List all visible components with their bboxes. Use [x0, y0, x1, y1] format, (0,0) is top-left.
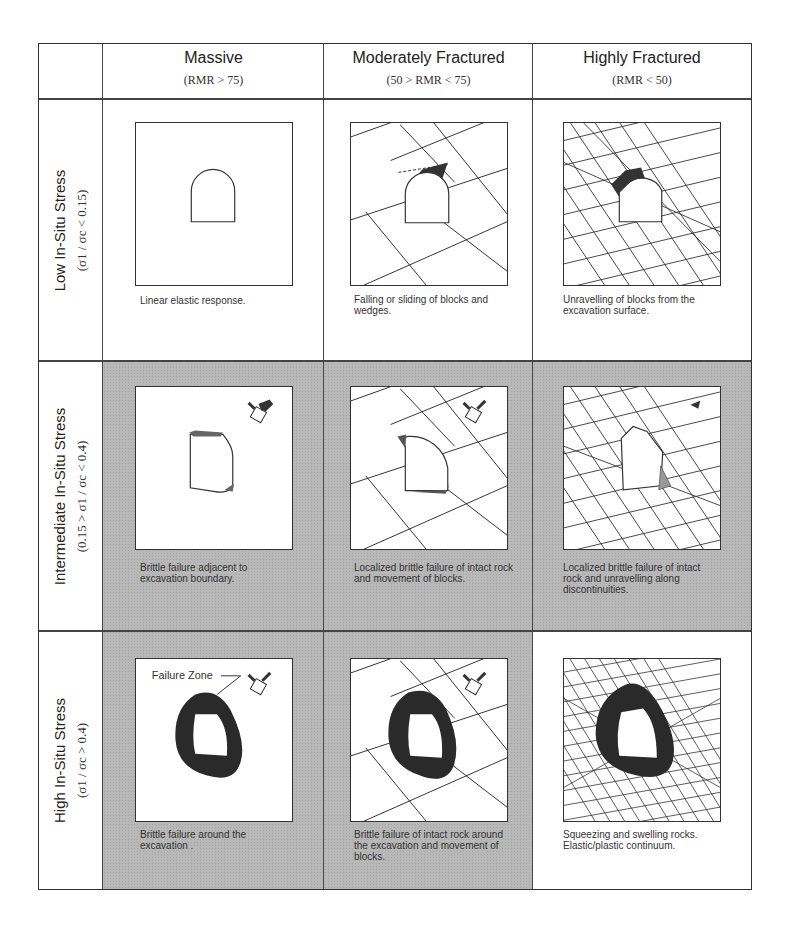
tunnel-elastic-icon: [136, 123, 292, 285]
cell-low-highly: Unravelling of blocks from the excavatio…: [533, 100, 751, 360]
cell-description: Localized brittle failure of intact rock…: [324, 562, 533, 584]
column-header-highly-fractured: Highly Fractured (RMR < 50): [533, 44, 751, 98]
column-header-massive: Massive (RMR > 75): [103, 44, 324, 98]
fractured-failure-zone-tunnel-icon: [351, 659, 507, 821]
cell-low-massive: Linear elastic response.: [103, 100, 324, 360]
row-condition: (σ1 / σc > 0.4): [74, 698, 90, 823]
failure-zone-label: Failure Zone: [151, 669, 212, 681]
row-title: Intermediate In-Situ Stress: [51, 407, 68, 585]
cell-description: Unravelling of blocks from the excavatio…: [533, 294, 751, 316]
fractured-tunnel-icon: [351, 123, 507, 285]
row-header-low-stress: Low In-Situ Stress (σ1 / σc < 0.15): [39, 100, 102, 360]
stress-arrows-icon: [248, 673, 270, 695]
tunnel-diagram: Failure Zone: [135, 658, 293, 822]
column-condition: (50 > RMR < 75): [324, 73, 533, 88]
row-title: High In-Situ Stress: [51, 698, 68, 823]
tunnel-diagram: [563, 658, 721, 822]
cell-description: Brittle failure of intact rock around th…: [324, 829, 533, 862]
row-header-intermediate-stress: Intermediate In-Situ Stress (0.15 > σ1 /…: [39, 362, 102, 630]
row-condition: (0.15 > σ1 / σc < 0.4): [74, 407, 90, 585]
cell-description: Linear elastic response.: [103, 295, 324, 306]
cell-low-moderate: Falling or sliding of blocks and wedges.: [324, 100, 533, 360]
tunnel-diagram: [563, 386, 721, 550]
cell-intermediate-massive: Brittle failure adjacent to excavation b…: [103, 362, 324, 630]
stress-arrows-icon: [463, 401, 485, 423]
highly-fractured-tunnel-icon: [564, 123, 720, 285]
rock-failure-matrix-table: Massive (RMR > 75) Moderately Fractured …: [38, 43, 752, 890]
tunnel-diagram: [135, 386, 293, 550]
cell-description: Brittle failure adjacent to excavation b…: [103, 562, 324, 584]
cell-description: Squeezing and swelling rocks. Elastic/pl…: [533, 829, 751, 851]
cell-intermediate-highly: Localized brittle failure of intact rock…: [533, 362, 751, 630]
stress-arrows-icon: [248, 401, 272, 423]
row-title: Low In-Situ Stress: [51, 169, 68, 291]
tunnel-brittle-icon: [136, 387, 292, 549]
squeezing-tunnel-icon: [564, 659, 720, 821]
cell-intermediate-moderate: Localized brittle failure of intact rock…: [324, 362, 533, 630]
column-condition: (RMR < 50): [533, 73, 751, 88]
cell-description: Brittle failure around the excavation .: [103, 829, 324, 851]
row-header-high-stress: High In-Situ Stress (σ1 / σc > 0.4): [39, 632, 102, 889]
fractured-brittle-tunnel-icon: [351, 387, 507, 549]
stress-arrows-icon: [463, 673, 485, 695]
column-header-moderately-fractured: Moderately Fractured (50 > RMR < 75): [324, 44, 533, 98]
cell-description: Localized brittle failure of intact rock…: [533, 562, 751, 595]
tunnel-diagram: [350, 658, 508, 822]
column-title: Highly Fractured: [533, 49, 751, 67]
highly-fractured-brittle-tunnel-icon: [564, 387, 720, 549]
tunnel-diagram: [563, 122, 721, 286]
tunnel-diagram: [135, 122, 293, 286]
cell-high-massive: Failure Zone Brittle failure around the …: [103, 632, 324, 889]
cell-description: Falling or sliding of blocks and wedges.: [324, 294, 533, 316]
column-title: Moderately Fractured: [324, 49, 533, 67]
failure-zone-tunnel-icon: Failure Zone: [136, 659, 292, 821]
column-condition: (RMR > 75): [103, 73, 324, 88]
row-condition: (σ1 / σc < 0.15): [74, 169, 90, 291]
tunnel-diagram: [350, 386, 508, 550]
column-title: Massive: [103, 49, 324, 67]
tunnel-diagram: [350, 122, 508, 286]
cell-high-highly: Squeezing and swelling rocks. Elastic/pl…: [533, 632, 751, 889]
cell-high-moderate: Brittle failure of intact rock around th…: [324, 632, 533, 889]
